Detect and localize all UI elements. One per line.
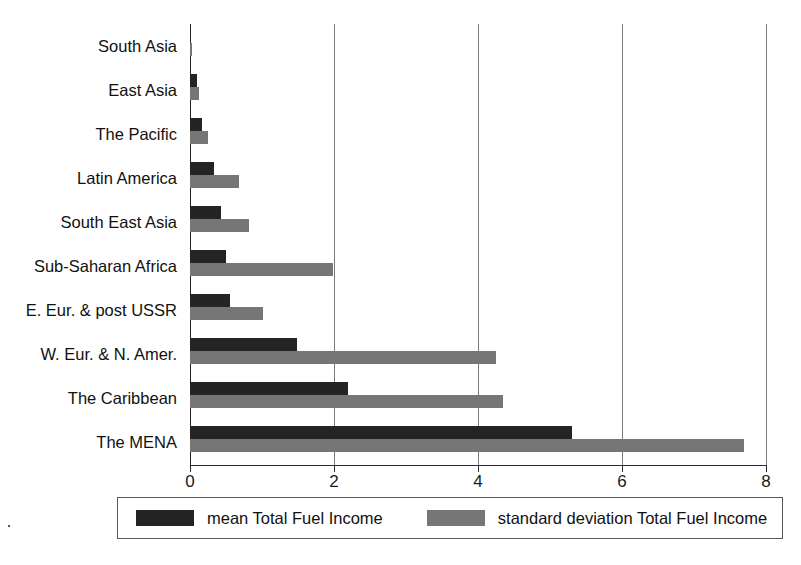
x-tick-label: 2	[329, 472, 338, 492]
bar-group	[190, 420, 766, 464]
category-label: Sub-Saharan Africa	[34, 257, 177, 276]
category-axis-labels: South Asia East Asia The Pacific Latin A…	[0, 24, 185, 465]
category-label: E. Eur. & post USSR	[26, 301, 177, 320]
x-tick-mark	[190, 465, 191, 472]
category-label: The MENA	[96, 433, 177, 452]
bar-group	[190, 68, 766, 112]
bar-stdev	[190, 175, 239, 188]
bar-mean	[190, 382, 348, 395]
bar-mean	[190, 426, 572, 439]
legend-swatch-stdev	[427, 510, 485, 526]
x-tick-label: 4	[473, 472, 482, 492]
bar-stdev	[190, 307, 263, 320]
legend-item-stdev: standard deviation Total Fuel Income	[427, 509, 767, 528]
bar-stdev	[190, 219, 249, 232]
category-label: South Asia	[98, 37, 177, 56]
bar-group	[190, 112, 766, 156]
bar-mean	[190, 118, 202, 131]
bar-stdev	[190, 87, 199, 100]
bar-mean	[190, 338, 297, 351]
bar-mean	[190, 74, 197, 87]
x-tick-label: 6	[617, 472, 626, 492]
legend-label-stdev: standard deviation Total Fuel Income	[498, 509, 767, 528]
bar-group	[190, 376, 766, 420]
bar-stdev	[190, 131, 208, 144]
category-label: Latin America	[77, 169, 177, 188]
bar-mean	[190, 30, 191, 43]
plot-area	[190, 24, 766, 465]
category-label: W. Eur. & N. Amer.	[40, 345, 177, 364]
bar-stdev	[190, 395, 503, 408]
bar-mean	[190, 206, 221, 219]
bar-group	[190, 244, 766, 288]
fuel-income-bar-chart: South Asia East Asia The Pacific Latin A…	[0, 0, 801, 565]
bar-stdev	[190, 439, 744, 452]
x-tick-mark	[766, 465, 767, 472]
bar-group	[190, 24, 766, 68]
figure-caption	[8, 552, 798, 565]
category-label: East Asia	[108, 81, 177, 100]
category-label: The Pacific	[95, 125, 177, 144]
bar-group	[190, 288, 766, 332]
caption-artifact	[8, 525, 10, 527]
bar-mean	[190, 162, 214, 175]
bar-stdev	[190, 351, 496, 364]
x-tick-mark	[334, 465, 335, 472]
chart-legend: mean Total Fuel Income standard deviatio…	[117, 497, 783, 539]
category-label: The Caribbean	[68, 389, 177, 408]
x-tick-label: 8	[761, 472, 770, 492]
legend-swatch-mean	[136, 510, 194, 526]
gridline-8	[766, 24, 767, 465]
category-label: South East Asia	[61, 213, 178, 232]
bar-group	[190, 332, 766, 376]
bar-mean	[190, 250, 226, 263]
legend-label-mean: mean Total Fuel Income	[207, 509, 383, 528]
x-tick-mark	[478, 465, 479, 472]
bar-group	[190, 200, 766, 244]
bar-stdev	[190, 43, 192, 56]
bar-mean	[190, 294, 230, 307]
bar-stdev	[190, 263, 333, 276]
legend-item-mean: mean Total Fuel Income	[136, 509, 383, 528]
x-tick-mark	[622, 465, 623, 472]
x-tick-label: 0	[185, 472, 194, 492]
bar-group	[190, 156, 766, 200]
